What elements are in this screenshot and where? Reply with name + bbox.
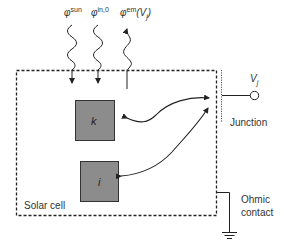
transition-k-junction — [127, 98, 209, 122]
transition-i-junction — [121, 108, 208, 176]
terminal-node-icon — [250, 91, 258, 99]
flux-sun-label: φsun — [64, 6, 82, 18]
voltage-label: Vj — [250, 73, 258, 86]
solar-cell-diagram: φsun φin,0 φem(Vj) k i Solar cell Juncti… — [0, 0, 284, 251]
flux-in0-label: φin,0 — [91, 6, 109, 18]
state-i-label: i — [98, 176, 100, 188]
ohmic-contact-wire — [216, 193, 230, 233]
photon-em-wave — [124, 29, 132, 89]
state-k-label: k — [91, 115, 97, 127]
photon-sun-wave — [68, 25, 77, 83]
ohmic-contact-label-line2: contact — [241, 208, 273, 218]
ohmic-contact-label-line1: Ohmic — [241, 195, 270, 205]
solar-cell-label: Solar cell — [24, 201, 65, 211]
flux-em-label: φem(Vj) — [120, 6, 151, 20]
photon-in0-wave — [94, 25, 103, 83]
junction-label: Junction — [230, 118, 267, 128]
